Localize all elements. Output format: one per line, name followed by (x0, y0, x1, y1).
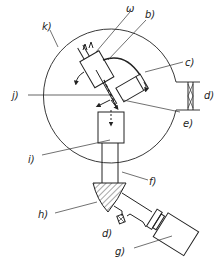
window-right (188, 82, 193, 110)
label-f: f) (149, 176, 156, 187)
label-k: k) (42, 21, 52, 32)
rotation-arc (103, 58, 140, 75)
bent-crystal-h (93, 183, 126, 212)
label-e: e) (183, 118, 193, 129)
label-i: i) (28, 154, 35, 165)
label-c: c) (185, 57, 194, 68)
detector-block (116, 74, 148, 102)
box-i (98, 112, 124, 143)
detector-arm (114, 193, 152, 227)
label-j: j) (10, 90, 19, 101)
label-b: b) (145, 9, 155, 20)
label-g: g) (115, 246, 125, 257)
detector-flange (147, 209, 166, 231)
goniometer-diagram: ω b) k) c) d) j) e) i) f) h) d) g) (0, 0, 224, 266)
label-omega: ω (126, 3, 134, 14)
label-d-right: d) (204, 90, 214, 101)
label-h: h) (38, 209, 48, 220)
label-d-bottom: d) (102, 228, 112, 239)
detector-g (153, 213, 198, 256)
